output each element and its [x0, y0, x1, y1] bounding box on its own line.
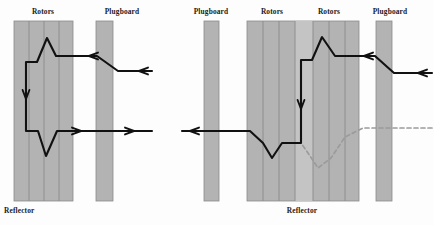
left-rotors-label: Rotors — [32, 7, 54, 16]
right-panel-left-plugboard-label: Plugboard — [194, 7, 229, 16]
diagram-canvas: Rotors Plugboard Reflector — [0, 0, 434, 225]
right-panel-right-plugboard-label: Plugboard — [373, 7, 408, 16]
enigma-diagram-figure: Rotors Plugboard Reflector — [0, 0, 434, 225]
right-rotors-right-label: Rotors — [318, 7, 340, 16]
right-panel-left-plugboard-block — [204, 21, 219, 201]
left-plugboard-block — [96, 21, 113, 201]
right-rotors-block — [247, 21, 359, 201]
right-reflector-label: Reflector — [287, 206, 318, 215]
right-rotors-left-label: Rotors — [261, 7, 283, 16]
right-rotors-light-band — [295, 21, 313, 201]
left-reflector-label: Reflector — [4, 206, 35, 215]
left-plugboard-label: Plugboard — [105, 7, 140, 16]
right-panel-right-plugboard-block — [376, 21, 392, 201]
